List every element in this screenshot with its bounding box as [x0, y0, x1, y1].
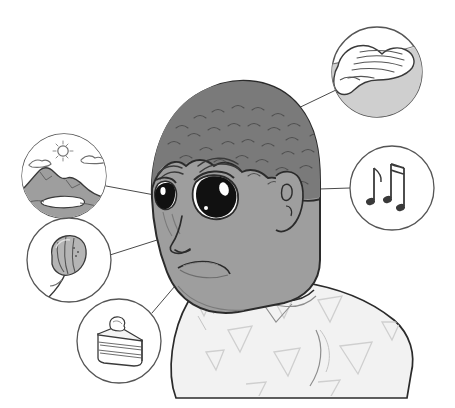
- sense-icon-smell[interactable]: [27, 218, 111, 302]
- head: [149, 78, 324, 313]
- cloud-left: [29, 160, 51, 167]
- sense-icon-hearing[interactable]: [350, 146, 434, 230]
- right-eye-small-highlight: [204, 206, 208, 210]
- lake: [41, 196, 85, 208]
- illustration-canvas: [0, 0, 455, 408]
- sun-icon: [58, 146, 68, 156]
- left-eye-highlight: [160, 187, 165, 195]
- hearing-circle-border: [350, 146, 434, 230]
- cake-cream-topping: [110, 317, 125, 331]
- sense-icon-taste[interactable]: [77, 299, 161, 383]
- five-senses-illustration: [0, 0, 455, 408]
